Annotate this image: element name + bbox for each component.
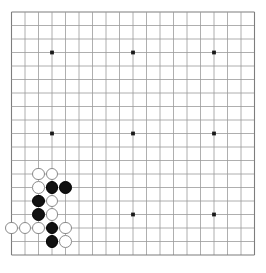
star-point-marker	[50, 132, 54, 136]
star-point-marker	[212, 213, 216, 217]
star-point-marker	[212, 51, 216, 55]
star-point-marker	[50, 51, 54, 55]
black-stone[interactable]	[59, 181, 72, 194]
black-stone[interactable]	[46, 235, 59, 248]
white-stone[interactable]	[32, 222, 45, 235]
black-stone[interactable]	[32, 208, 45, 221]
white-stone[interactable]	[59, 222, 72, 235]
star-point-marker	[212, 132, 216, 136]
star-point-marker	[131, 51, 135, 55]
white-stone[interactable]	[32, 181, 45, 194]
black-stone[interactable]	[46, 181, 59, 194]
white-stone[interactable]	[46, 208, 59, 221]
white-stone[interactable]	[59, 235, 72, 248]
star-point-marker	[131, 213, 135, 217]
go-board-container[interactable]	[0, 0, 266, 273]
white-stone[interactable]	[5, 222, 18, 235]
black-stone[interactable]	[32, 195, 45, 208]
white-stone[interactable]	[32, 168, 45, 181]
star-point-marker	[131, 132, 135, 136]
